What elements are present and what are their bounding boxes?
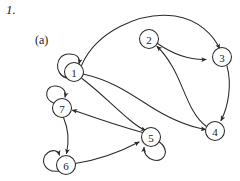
edge-1-to-4 bbox=[83, 74, 206, 130]
node-label-1: 1 bbox=[71, 67, 77, 79]
graph-node-4[interactable]: 4 bbox=[206, 122, 225, 141]
graph-node-5[interactable]: 5 bbox=[142, 128, 161, 147]
node-label-2: 2 bbox=[146, 34, 152, 46]
edge-6-to-5 bbox=[75, 142, 139, 164]
node-label-4: 4 bbox=[212, 126, 218, 138]
graph-node-1[interactable]: 1 bbox=[65, 63, 84, 82]
nodes-layer: 1 2 3 4 5 6 7 bbox=[53, 30, 232, 175]
edge-3-to-4 bbox=[221, 66, 229, 121]
graph-node-6[interactable]: 6 bbox=[57, 156, 76, 175]
node-label-5: 5 bbox=[148, 132, 154, 144]
edge-7-to-6 bbox=[64, 118, 69, 154]
edge-2-to-3 bbox=[158, 44, 207, 60]
node-label-7: 7 bbox=[59, 103, 65, 115]
node-label-3: 3 bbox=[219, 52, 225, 64]
graph-node-3[interactable]: 3 bbox=[213, 48, 232, 67]
graph-node-2[interactable]: 2 bbox=[140, 30, 159, 49]
figure-container: 1. (a) bbox=[0, 0, 240, 181]
node-label-6: 6 bbox=[63, 160, 69, 172]
graph-node-7[interactable]: 7 bbox=[53, 99, 72, 118]
directed-graph-diagram: 1 2 3 4 5 6 7 bbox=[0, 0, 240, 181]
edges-layer bbox=[44, 15, 230, 171]
edge-1-to-5 bbox=[82, 79, 146, 131]
